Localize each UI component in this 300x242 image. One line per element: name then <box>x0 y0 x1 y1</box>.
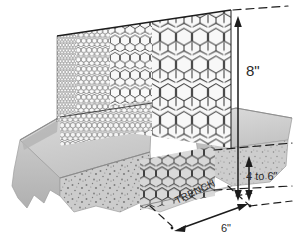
depth-dimension-label: 4 to 6" <box>246 170 277 182</box>
width-endpoint-right <box>249 205 252 208</box>
trench-fence-diagram <box>0 0 300 242</box>
width-endpoint-left <box>171 227 174 230</box>
width-dimension-label: 6" <box>221 222 231 234</box>
height-dimension-label: 8" <box>246 62 260 79</box>
